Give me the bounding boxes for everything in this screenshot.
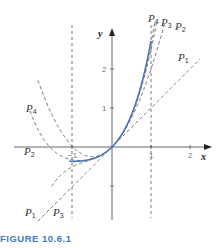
y-tick-label-1: 1 [102, 104, 107, 113]
svg-text:P4: P4 [147, 12, 159, 25]
taylor-polynomial-p4-curve [30, 0, 159, 161]
label-p3-right: P3 [160, 16, 172, 29]
x-tick-label-minus-1: −1 [68, 151, 78, 160]
x-axis-label: x [200, 151, 206, 162]
x-tick-label-1: 1 [149, 151, 154, 160]
svg-text:P3: P3 [52, 206, 64, 219]
svg-text:P3: P3 [160, 16, 172, 29]
label-p1-bottom: P1 [24, 206, 36, 219]
figure-caption: FIGURE 10.6.1 [0, 233, 71, 244]
svg-text:P2: P2 [174, 20, 186, 33]
label-p2-right: P2 [174, 20, 186, 33]
y-axis-arrow-icon [109, 28, 115, 36]
label-p4-right: P4 [147, 12, 159, 25]
svg-text:P4: P4 [25, 102, 37, 115]
svg-text:P1: P1 [24, 206, 36, 219]
y-axis-label: y [97, 28, 103, 39]
x-axis-arrow-icon [204, 144, 212, 150]
label-p1-right: P1 [177, 51, 189, 64]
svg-text:P1: P1 [177, 51, 189, 64]
label-p4-left: P4 [25, 102, 37, 115]
x-tick-label-2: 2 [188, 151, 193, 160]
label-p3-bottom: P3 [52, 206, 64, 219]
y-tick-label-2: 2 [102, 65, 107, 74]
figure-plot: −1 1 2 1 2 x y P4 P3 P2 P1 P4 P2 P1 P3 [0, 0, 218, 230]
